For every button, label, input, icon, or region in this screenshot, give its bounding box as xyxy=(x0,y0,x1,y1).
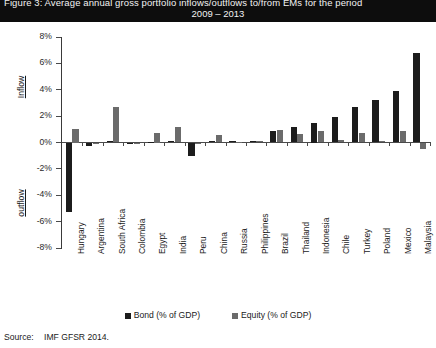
bar-bond xyxy=(250,141,256,143)
x-axis-tick xyxy=(348,142,349,146)
x-axis-tick xyxy=(389,142,390,146)
x-axis-tick xyxy=(164,142,165,146)
bar-equity xyxy=(420,143,426,150)
y-axis-tick-label: 2% xyxy=(2,110,52,120)
bar-bond xyxy=(127,143,133,145)
source-note: Source: IMF GFSR 2014. xyxy=(4,332,109,342)
inflow-axis-label: Inflow xyxy=(16,64,26,110)
x-axis-category-label: Argentina xyxy=(96,218,106,254)
x-axis-category-label: Malaysia xyxy=(423,221,433,254)
bar-equity xyxy=(113,107,119,143)
x-axis-tick xyxy=(205,142,206,146)
y-axis-tick xyxy=(56,195,61,196)
bar-equity xyxy=(195,143,201,144)
y-axis-tick-label: 8% xyxy=(2,31,52,41)
chart-canvas: 8%6%4%2%0%-2%-4%-6%-8% Inflow outflow Hu… xyxy=(0,22,436,348)
x-axis-tick xyxy=(266,142,267,146)
x-axis-tick xyxy=(287,142,288,146)
bar-equity xyxy=(175,127,181,142)
x-axis-tick xyxy=(82,142,83,146)
bar-bond xyxy=(107,141,113,142)
chart-legend: Bond (% of GDP)Equity (% of GDP) xyxy=(0,310,436,320)
x-axis-category-label: China xyxy=(219,232,229,254)
x-axis-category-label: Indonesia xyxy=(321,218,331,254)
bar-bond xyxy=(352,107,358,143)
y-axis-tick xyxy=(56,63,61,64)
x-axis-tick xyxy=(410,142,411,146)
y-axis-line xyxy=(61,37,62,249)
legend-item-equity[interactable]: Equity (% of GDP) xyxy=(232,310,311,320)
y-axis-tick xyxy=(56,142,61,143)
x-axis-tick xyxy=(144,142,145,146)
legend-item-bond[interactable]: Bond (% of GDP) xyxy=(125,310,200,320)
y-axis-tick xyxy=(56,116,61,117)
y-axis-tick xyxy=(56,248,61,249)
x-axis-tick xyxy=(246,142,247,146)
x-axis-tick xyxy=(226,142,227,146)
x-axis-category-label: Peru xyxy=(198,236,208,254)
y-axis-tick xyxy=(56,221,61,222)
bar-equity xyxy=(359,133,365,142)
y-axis-tick-label: 6% xyxy=(2,57,52,67)
bar-bond xyxy=(413,53,419,143)
bar-equity xyxy=(338,140,344,143)
legend-label-bond: Bond (% of GDP) xyxy=(134,310,200,320)
source-text: IMF GFSR 2014. xyxy=(44,332,109,342)
x-axis-tick xyxy=(103,142,104,146)
bar-bond xyxy=(209,141,215,142)
x-axis-category-label: Chile xyxy=(341,235,351,254)
x-axis-category-label: South Africa xyxy=(117,209,127,254)
bar-bond xyxy=(229,141,235,142)
bar-bond xyxy=(270,131,276,142)
figure-title-band: Figure 3: Average annual gross portfolio… xyxy=(0,0,436,22)
bar-equity xyxy=(216,135,222,142)
x-axis-category-label: Turkey xyxy=(362,229,372,254)
y-axis-tick-label: 0% xyxy=(2,137,52,147)
source-label: Source: xyxy=(4,332,34,342)
figure-title-line-2: 2009 – 2013 xyxy=(0,8,436,19)
x-axis-category-label: Brazil xyxy=(280,233,290,254)
y-axis-tick xyxy=(56,168,61,169)
bar-equity xyxy=(379,141,385,142)
bar-bond xyxy=(311,123,317,143)
bar-bond xyxy=(148,142,154,143)
bar-equity xyxy=(134,143,140,144)
x-axis-tick xyxy=(307,142,308,146)
bar-equity xyxy=(256,141,262,142)
bar-bond xyxy=(168,141,174,142)
y-axis-tick-label: -4% xyxy=(2,189,52,199)
x-axis-tick xyxy=(123,142,124,146)
bar-bond xyxy=(86,143,92,147)
outflow-axis-label: outflow xyxy=(16,180,26,226)
bar-equity xyxy=(297,134,303,143)
bar-equity xyxy=(318,131,324,142)
x-axis-category-label: Thailand xyxy=(301,222,311,254)
x-axis-category-label: Mexico xyxy=(403,227,413,254)
y-axis-tick xyxy=(56,89,61,90)
y-axis-tick xyxy=(56,37,61,38)
legend-swatch-bond xyxy=(125,313,131,319)
bar-equity xyxy=(236,142,242,143)
x-axis-tick xyxy=(185,142,186,146)
x-axis-category-label: Hungary xyxy=(76,222,86,254)
bar-bond xyxy=(291,127,297,142)
bar-equity xyxy=(400,131,406,143)
x-axis-category-label: Egypt xyxy=(157,233,167,254)
x-axis-tick xyxy=(328,142,329,146)
bar-bond xyxy=(372,100,378,142)
bar-bond xyxy=(188,143,194,156)
y-axis-tick-label: 4% xyxy=(2,84,52,94)
bar-equity xyxy=(93,143,99,144)
y-axis-tick-label: -2% xyxy=(2,163,52,173)
bar-bond xyxy=(332,117,338,142)
bar-equity xyxy=(277,130,283,143)
x-axis-category-label: Russia xyxy=(239,228,249,254)
bar-equity xyxy=(72,129,78,142)
x-axis-category-label: Philippines xyxy=(260,213,270,254)
bar-bond xyxy=(66,143,72,213)
x-axis-tick xyxy=(430,142,431,146)
x-axis-category-label: Colombia xyxy=(137,219,147,254)
bar-bond xyxy=(393,91,399,142)
x-axis-category-label: India xyxy=(178,236,188,254)
figure-title-line-1: Figure 3: Average annual gross portfolio… xyxy=(0,0,436,8)
